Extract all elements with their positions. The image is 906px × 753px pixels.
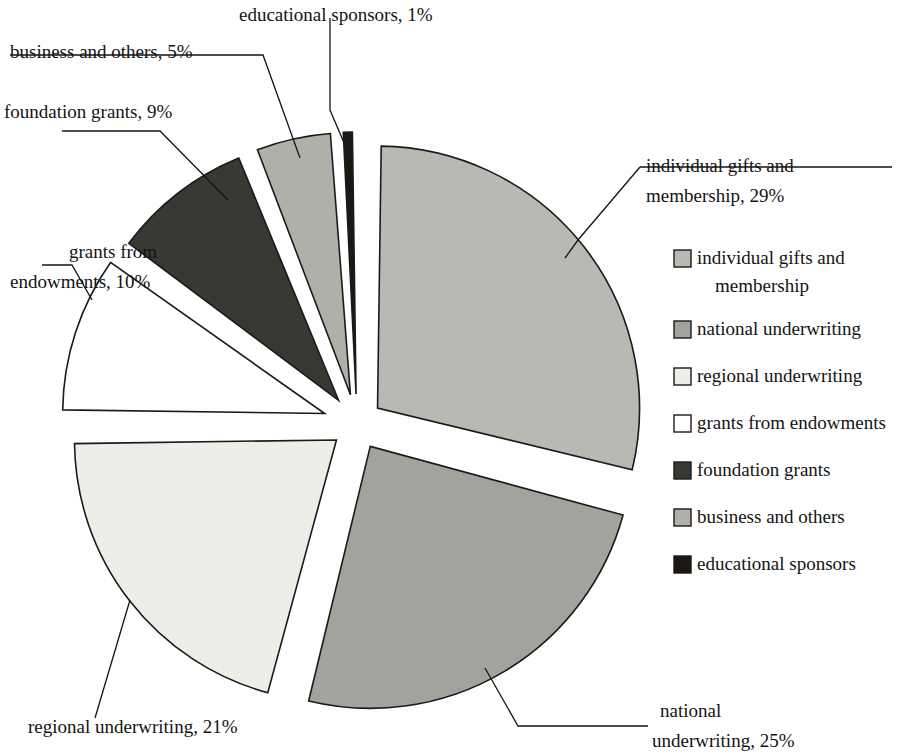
callout-individual-gifts-line1: individual gifts and — [646, 155, 794, 176]
legend-label-educational-sponsors[interactable]: educational sponsors — [697, 553, 856, 574]
callout-foundation-grants: foundation grants, 9% — [4, 101, 173, 122]
legend-swatch-educational-sponsors — [674, 556, 691, 573]
legend-label-foundation-grants[interactable]: foundation grants — [697, 459, 831, 480]
legend-label-individual-gifts-and[interactable]: individual gifts and — [697, 247, 845, 268]
legend-swatch-national-underwriting — [674, 321, 691, 338]
legend-label-business-and-others[interactable]: business and others — [697, 506, 845, 527]
callout-national-underwriting-line1: national — [660, 700, 721, 721]
legend-swatch-individual-gifts-and — [674, 250, 691, 267]
callout-business-and-others: business and others, 5% — [10, 41, 193, 62]
legend-swatch-business-and-others — [674, 509, 691, 526]
legend-label-grants-from-endowments[interactable]: grants from endowments — [697, 412, 886, 433]
callout-educational-sponsors: educational sponsors, 1% — [239, 4, 433, 25]
callout-grants-from-endowments-line2: endowments, 10% — [10, 271, 151, 292]
legend-label-regional-underwriting[interactable]: regional underwriting — [697, 365, 863, 386]
legend-swatch-grants-from-endowments — [674, 415, 691, 432]
pie-chart-figure: individual gifts and membership, 29%nati… — [0, 0, 906, 753]
callout-grants-from-endowments-line1: grants from — [69, 241, 157, 262]
callout-regional-underwriting: regional underwriting, 21% — [28, 716, 238, 737]
legend-label-national-underwriting[interactable]: national underwriting — [697, 318, 862, 339]
legend-swatch-regional-underwriting — [674, 368, 691, 385]
callout-individual-gifts-line2: membership, 29% — [646, 185, 784, 206]
legend-swatch-foundation-grants — [674, 462, 691, 479]
legend-label-individual-gifts-and-line2: membership — [715, 275, 809, 296]
callout-national-underwriting-line2: underwriting, 25% — [652, 730, 795, 751]
